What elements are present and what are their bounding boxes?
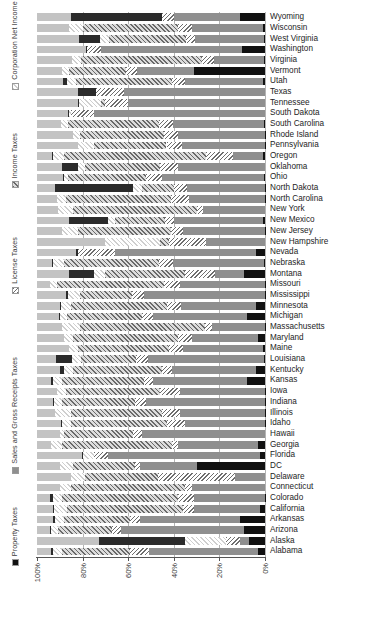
bar-row[interactable] [37, 24, 265, 32]
legend-item-sales[interactable]: Sales and Gross Receipts Taxes [0, 308, 30, 474]
bar-segment-income [160, 238, 169, 246]
bar-row[interactable] [37, 88, 265, 96]
bar-segment-income [64, 259, 160, 267]
bar-row[interactable] [37, 366, 265, 374]
bar-segment-license [136, 355, 147, 363]
bar-row[interactable] [37, 430, 265, 438]
x-tick-label-20: 20% [215, 563, 224, 578]
legend-item-license[interactable]: License Taxes [0, 202, 30, 294]
state-label-massachusetts: Massachusetts [270, 323, 325, 331]
bar-row[interactable] [37, 56, 265, 64]
bar-row[interactable] [37, 409, 265, 417]
bar-row[interactable] [37, 142, 265, 150]
bar-segment-property [240, 516, 265, 524]
bar-row[interactable] [37, 13, 265, 21]
bar-row[interactable] [37, 355, 265, 363]
bar-segment-other [37, 249, 76, 257]
bar-row[interactable] [37, 206, 265, 214]
bar-segment-license [185, 270, 215, 278]
bar-segment-license [178, 494, 194, 502]
bar-row[interactable] [37, 163, 265, 171]
bar-row[interactable] [37, 516, 265, 524]
bar-row[interactable] [37, 377, 265, 385]
bar-segment-sales [185, 78, 263, 86]
bar-row[interactable] [37, 388, 265, 396]
bar-segment-corp [53, 494, 62, 502]
bar-segment-property [265, 131, 266, 139]
bar-row[interactable] [37, 174, 265, 182]
bar-segment-severance [50, 526, 51, 534]
bar-row[interactable] [37, 184, 265, 192]
bar-segment-license [146, 174, 162, 182]
bar-segment-income [94, 142, 167, 150]
bar-row[interactable] [37, 110, 265, 118]
bar-segment-corp [51, 441, 62, 449]
bar-row[interactable] [37, 131, 265, 139]
state-label-indiana: Indiana [270, 398, 297, 406]
bar-segment-corp [69, 345, 78, 353]
bar-row[interactable] [37, 217, 265, 225]
bar-row[interactable] [37, 398, 265, 406]
bar-row[interactable] [37, 484, 265, 492]
bar-row[interactable] [37, 67, 265, 75]
bar-segment-other [37, 430, 60, 438]
bar-row[interactable] [37, 473, 265, 481]
bar-row[interactable] [37, 345, 265, 353]
bar-row[interactable] [37, 302, 265, 310]
bar-row[interactable] [37, 99, 265, 107]
bar-row[interactable] [37, 35, 265, 43]
bar-row[interactable] [37, 281, 265, 289]
bar-row[interactable] [37, 291, 265, 299]
bar-row[interactable] [37, 152, 265, 160]
legend-label-income: Income Taxes [11, 133, 18, 178]
bar-row[interactable] [37, 420, 265, 428]
bar-row[interactable] [37, 270, 265, 278]
bar-segment-income [71, 302, 167, 310]
bar-row[interactable] [37, 78, 265, 86]
bar-segment-other [37, 548, 51, 556]
bar-row[interactable] [37, 323, 265, 331]
bar-row[interactable] [37, 441, 265, 449]
legend-item-corp[interactable]: Corporation Net Income Taxes [0, 0, 30, 90]
x-tick-100 [37, 557, 38, 561]
bar-row[interactable] [37, 46, 265, 54]
bar-segment-property [264, 35, 265, 43]
bar-row[interactable] [37, 249, 265, 257]
bar-row[interactable] [37, 462, 265, 470]
bar-segment-severance [66, 291, 68, 299]
bar-segment-severance [59, 313, 60, 321]
bar-row[interactable] [37, 195, 265, 203]
legend-item-property[interactable]: Property Taxes [0, 488, 30, 566]
bar-row[interactable] [37, 227, 265, 235]
bar-row[interactable] [37, 494, 265, 502]
bar-segment-license [226, 537, 240, 545]
bar-row[interactable] [37, 548, 265, 556]
bar-row[interactable] [37, 259, 265, 267]
state-label-ohio: Ohio [270, 173, 287, 181]
bar-row[interactable] [37, 313, 265, 321]
bar-segment-corp [100, 35, 109, 43]
bar-segment-corp [60, 313, 67, 321]
bar-segment-property [265, 409, 266, 417]
legend-item-income[interactable]: Income Taxes [0, 104, 30, 188]
bar-segment-severance [60, 366, 65, 374]
state-label-vermont: Vermont [270, 67, 301, 75]
bar-segment-license [105, 99, 128, 107]
bar-segment-license [160, 388, 181, 396]
x-tick-40 [174, 557, 175, 561]
bar-segment-income [76, 78, 172, 86]
bar-row[interactable] [37, 238, 265, 246]
bar-row[interactable] [37, 120, 265, 128]
bar-segment-severance [60, 302, 61, 310]
bar-row[interactable] [37, 452, 265, 460]
bar-row[interactable] [37, 526, 265, 534]
bar-row[interactable] [37, 334, 265, 342]
bar-segment-sales [180, 388, 264, 396]
bar-row[interactable] [37, 537, 265, 545]
bar-segment-sales [174, 217, 263, 225]
bar-row[interactable] [37, 505, 265, 513]
bar-segment-license [159, 120, 173, 128]
bar-segment-corp [62, 420, 71, 428]
bar-segment-severance [52, 259, 53, 267]
bar-segment-property [263, 78, 265, 86]
